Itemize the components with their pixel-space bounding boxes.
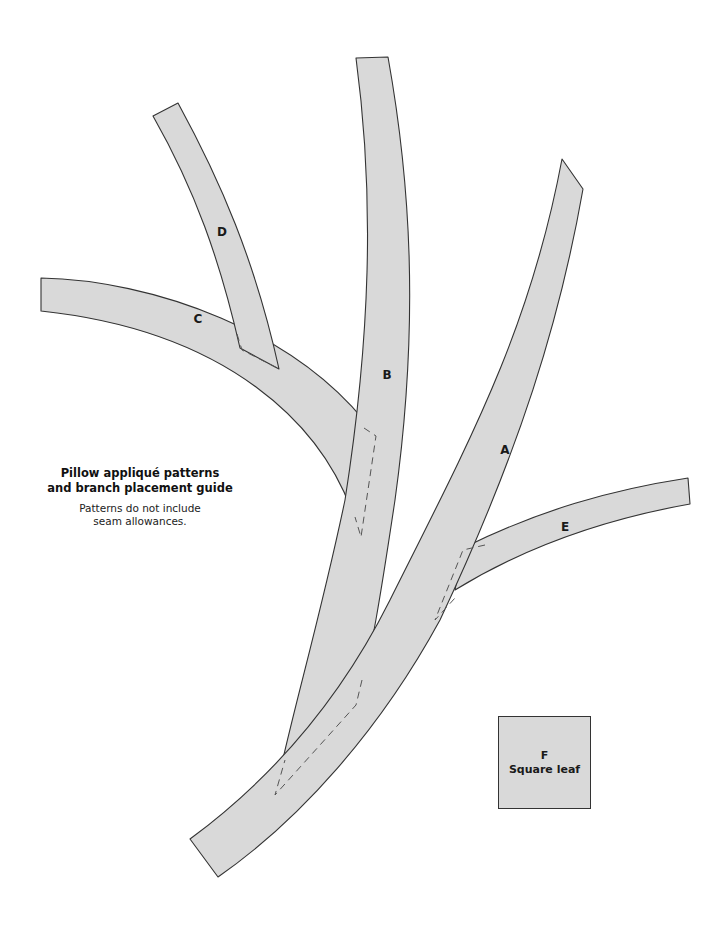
label-f-name: Square leaf xyxy=(509,763,580,777)
label-b: B xyxy=(382,368,391,382)
label-a: A xyxy=(500,443,510,457)
caption-note-line-1: Patterns do not include xyxy=(40,502,240,515)
caption-title: Pillow appliqué patterns and branch plac… xyxy=(40,466,240,496)
caption-note: Patterns do not include seam allowances. xyxy=(40,502,240,528)
caption-note-line-2: seam allowances. xyxy=(40,515,240,528)
pattern-diagram: D C B A E xyxy=(0,0,706,925)
label-c: C xyxy=(194,312,203,326)
caption-title-line-2: and branch placement guide xyxy=(40,481,240,496)
caption-title-line-1: Pillow appliqué patterns xyxy=(40,466,240,481)
label-f: F xyxy=(541,749,549,763)
label-e: E xyxy=(561,520,569,534)
label-d: D xyxy=(217,225,227,239)
diagram-caption: Pillow appliqué patterns and branch plac… xyxy=(40,466,240,528)
piece-f-square-leaf: F Square leaf xyxy=(498,716,591,809)
